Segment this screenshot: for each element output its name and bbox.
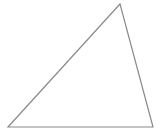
triangle-diagram [0,0,165,129]
triangle-shape [8,4,153,127]
